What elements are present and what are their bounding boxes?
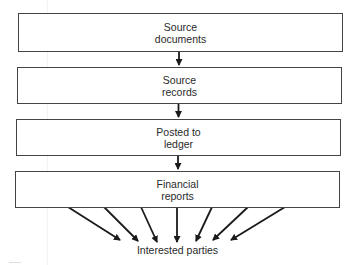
figure-caption-fragment bbox=[9, 262, 21, 263]
node-label-line2: ledger bbox=[156, 138, 200, 150]
node-posted-to-ledger: Posted to ledger bbox=[16, 119, 341, 156]
node-label-line2: records bbox=[162, 86, 197, 98]
node-label-line1: Source bbox=[155, 21, 206, 33]
node-source-documents: Source documents bbox=[18, 13, 343, 52]
node-label-line2: reports bbox=[156, 190, 198, 202]
node-label-line1: Posted to bbox=[156, 126, 200, 138]
fan-out-arrows bbox=[68, 207, 285, 242]
node-financial-reports: Financial reports bbox=[15, 171, 340, 208]
target-interested-parties: Interested parties bbox=[0, 244, 355, 256]
node-label-line1: Source bbox=[162, 74, 197, 86]
node-label-line2: documents bbox=[155, 33, 206, 45]
node-source-records: Source records bbox=[17, 67, 342, 104]
node-label-line1: Financial bbox=[156, 178, 198, 190]
